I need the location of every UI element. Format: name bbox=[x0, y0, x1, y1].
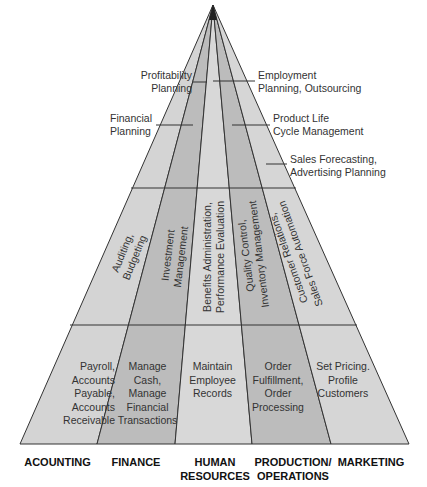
cell-set-pricing: Set Pricing. Profile Customers bbox=[308, 360, 378, 401]
label-product-life-cycle: Product Life Cycle Management bbox=[273, 112, 363, 138]
label-profitability-planning: Profitability Planning bbox=[122, 69, 192, 95]
dept-production-operations: PRODUCTION/ OPERATIONS bbox=[253, 455, 333, 483]
dept-accounting: ACOUNTING bbox=[15, 455, 100, 469]
cell-payroll: Payroll, Accounts Payable, Accounts Rece… bbox=[55, 360, 115, 428]
dept-marketing: MARKETING bbox=[336, 455, 406, 469]
dept-human-resources: HUMAN RESOURCES bbox=[175, 455, 255, 483]
cell-maintain-employee-records: Maintain Employee Records bbox=[180, 360, 245, 401]
cell-manage-cash: Manage Cash, Manage Financial Transactio… bbox=[110, 360, 185, 428]
label-employment-planning: Employment Planning, Outsourcing bbox=[258, 69, 361, 95]
label-benefits-administration: Benefits Administration, Performance Eva… bbox=[201, 201, 226, 313]
dept-finance: FINANCE bbox=[106, 455, 166, 469]
label-financial-planning: Financial Planning bbox=[110, 112, 180, 138]
cell-order-fulfillment: Order Fulfillment, Order Processing bbox=[243, 360, 313, 414]
label-sales-forecasting: Sales Forecasting, Advertising Planning bbox=[290, 153, 386, 179]
